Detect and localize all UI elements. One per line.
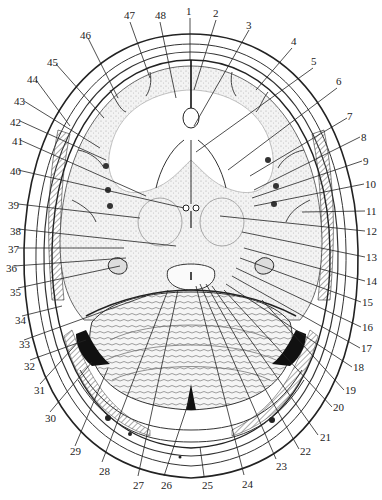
label-34: 34 [15, 315, 26, 326]
label-9: 9 [363, 156, 369, 167]
label-47: 47 [124, 10, 135, 21]
label-20: 20 [333, 402, 344, 413]
label-16: 16 [362, 322, 373, 333]
label-11: 11 [366, 206, 377, 217]
label-2: 2 [213, 8, 219, 19]
label-12: 12 [366, 226, 377, 237]
label-8: 8 [361, 132, 367, 143]
label-1: 1 [186, 6, 192, 17]
label-14: 14 [366, 276, 377, 287]
label-31: 31 [34, 385, 45, 396]
label-28: 28 [99, 466, 110, 477]
label-40: 40 [10, 166, 21, 177]
label-18: 18 [353, 362, 364, 373]
label-5: 5 [311, 56, 317, 67]
label-4: 4 [291, 36, 297, 47]
label-44: 44 [27, 74, 38, 85]
label-42: 42 [10, 117, 21, 128]
label-45: 45 [47, 57, 58, 68]
label-35: 35 [10, 287, 21, 298]
label-10: 10 [365, 179, 376, 190]
label-27: 27 [133, 480, 144, 491]
label-37: 37 [8, 244, 19, 255]
label-15: 15 [362, 297, 373, 308]
label-46: 46 [80, 30, 91, 41]
label-17: 17 [361, 343, 372, 354]
label-3: 3 [246, 20, 252, 31]
label-41: 41 [12, 136, 23, 147]
label-36: 36 [6, 263, 17, 274]
label-26: 26 [161, 480, 172, 491]
label-21: 21 [320, 432, 331, 443]
label-38: 38 [10, 226, 21, 237]
label-22: 22 [300, 446, 311, 457]
label-39: 39 [8, 200, 19, 211]
brain-section-diagram [0, 0, 382, 500]
label-6: 6 [336, 76, 342, 87]
label-48: 48 [155, 10, 166, 21]
label-24: 24 [242, 479, 253, 490]
label-25: 25 [202, 480, 213, 491]
label-30: 30 [45, 413, 56, 424]
label-43: 43 [14, 96, 25, 107]
label-23: 23 [276, 461, 287, 472]
label-29: 29 [70, 446, 81, 457]
label-33: 33 [19, 339, 30, 350]
label-7: 7 [347, 111, 353, 122]
label-13: 13 [366, 252, 377, 263]
label-32: 32 [24, 361, 35, 372]
label-19: 19 [345, 385, 356, 396]
